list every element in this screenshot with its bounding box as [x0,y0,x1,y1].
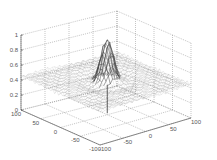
x-tick-label: -100 [99,146,112,152]
y-tick-label: 50 [32,120,39,126]
x-axis-ticks: -100-50050100 [99,119,202,152]
y-tick-label: 0 [54,129,58,135]
surface-plot: 00.20.40.60.81 100500-50-100 -100-500501… [0,0,217,160]
y-axis-ticks: 100500-50-100 [11,111,102,152]
y-tick-label: -50 [71,137,80,143]
z-tick-label: 1 [15,32,19,38]
surface-plot-figure: 00.20.40.60.81 100500-50-100 -100-500501… [0,0,217,160]
y-tick-label: 100 [11,111,22,117]
x-tick-label: 50 [170,126,177,132]
z-tick-label: 0.2 [10,92,19,98]
x-tick-label: 100 [191,119,202,125]
x-tick-label: -50 [123,139,132,145]
z-tick-label: 0.4 [10,77,19,83]
z-tick-label: 0.8 [10,47,19,53]
surface-mesh [21,40,191,114]
x-tick-label: 0 [149,133,153,139]
z-tick-label: 0.6 [10,62,19,68]
